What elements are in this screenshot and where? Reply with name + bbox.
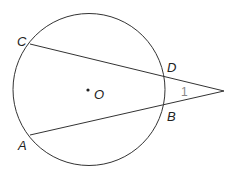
angle-1-label: 1 (181, 85, 188, 99)
secant-ab (30, 91, 224, 135)
center-point (86, 88, 89, 91)
label-c: C (17, 34, 27, 49)
label-a: A (17, 138, 27, 153)
secant-cd (30, 44, 224, 91)
label-o: O (94, 87, 104, 102)
geometry-diagram: O C D B A 1 (0, 0, 234, 172)
label-b: B (167, 109, 176, 124)
label-d: D (167, 60, 176, 75)
